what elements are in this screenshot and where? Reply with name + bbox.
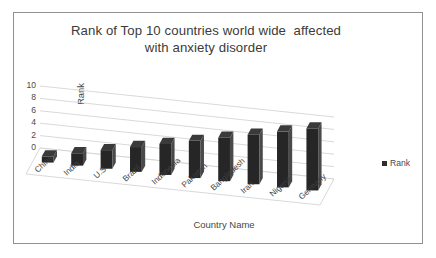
plot-area bbox=[14, 59, 424, 219]
rank-series-swatch bbox=[382, 161, 387, 166]
chart-frame: Rank of Top 10 countries world wide affe… bbox=[13, 12, 423, 244]
y-tick-label: 8 bbox=[16, 93, 36, 102]
y-tick-label: 2 bbox=[16, 131, 36, 140]
chart-legend: Rank bbox=[382, 159, 410, 168]
bar-side bbox=[259, 128, 262, 184]
x-axis-title: Country Name bbox=[144, 219, 304, 230]
y-tick-label: 0 bbox=[16, 143, 36, 152]
y-tick-label: 6 bbox=[16, 106, 36, 115]
y-tick-label: 10 bbox=[16, 81, 36, 90]
bar-front bbox=[248, 135, 260, 185]
legend-label-rank: Rank bbox=[390, 159, 410, 168]
chart-title: Rank of Top 10 countries world wide affe… bbox=[40, 22, 372, 56]
plot-svg bbox=[14, 59, 424, 219]
gridline bbox=[40, 98, 334, 129]
gridline bbox=[40, 86, 334, 117]
y-tick-label: 4 bbox=[16, 118, 36, 127]
